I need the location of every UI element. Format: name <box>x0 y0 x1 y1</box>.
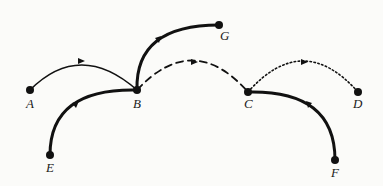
node-b: B <box>133 86 141 111</box>
arrowhead-icon <box>301 59 308 65</box>
edge-f-to-c <box>248 92 335 160</box>
edge-e-to-b <box>50 90 137 155</box>
node-c: C <box>244 88 253 111</box>
node-e: E <box>45 151 54 175</box>
node-label-c: C <box>244 96 253 111</box>
node-d: D <box>352 88 363 111</box>
node-f: F <box>330 156 340 180</box>
node-label-b: B <box>133 96 141 111</box>
node-label-d: D <box>352 96 363 111</box>
node-label-g: G <box>220 28 230 43</box>
node-label-a: A <box>25 96 34 111</box>
node-g: G <box>215 21 230 43</box>
edge-c-to-d <box>248 59 358 92</box>
arrowhead-icon <box>78 58 85 64</box>
node-label-e: E <box>45 160 54 175</box>
node-label-f: F <box>330 165 340 180</box>
node-a: A <box>25 86 34 111</box>
directed-graph-diagram: A B G C D E F <box>0 0 383 186</box>
edge-b-to-c <box>137 59 248 92</box>
edge-a-to-b <box>30 58 137 90</box>
edge-b-to-g <box>137 25 219 90</box>
